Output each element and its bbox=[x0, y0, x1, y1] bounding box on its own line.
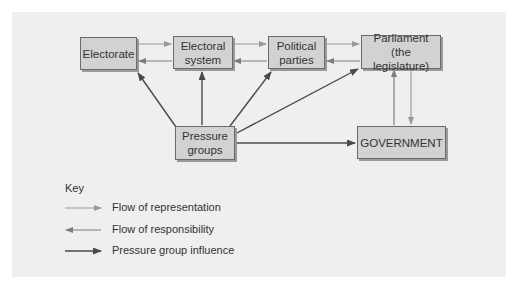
key-label-representation: Flow of representation bbox=[112, 201, 221, 213]
node-electoral-system: Electoral system bbox=[173, 36, 233, 69]
node-government: GOVERNMENT bbox=[357, 126, 446, 159]
influence-arrows bbox=[138, 69, 358, 143]
node-electorate: Electorate bbox=[80, 37, 137, 70]
node-parliament: Parliament (the legislature) bbox=[361, 35, 441, 69]
node-pressure-groups: Pressure groups bbox=[175, 126, 235, 160]
node-political-parties: Political parties bbox=[268, 36, 325, 69]
key-label-influence: Pressure group influence bbox=[112, 244, 234, 256]
key-title: Key bbox=[65, 182, 84, 194]
key-label-responsibility: Flow of responsibility bbox=[112, 223, 214, 235]
